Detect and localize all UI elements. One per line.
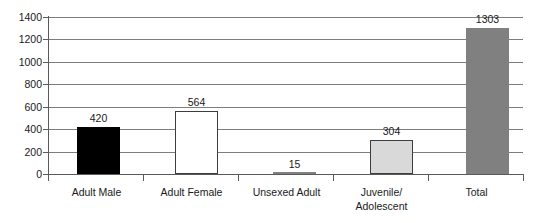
y-axis-label-0: 0 (2, 169, 42, 180)
x-tick-5 (523, 175, 524, 181)
y-axis-label-200: 200 (2, 147, 42, 158)
y-tick-800 (43, 84, 49, 85)
gridline-200 (49, 152, 523, 153)
x-axis-label-adult-male-line1: Adult Male (49, 185, 144, 199)
x-axis-label-unsexed-adult-line1: Unsexed Adult (239, 185, 334, 199)
x-axis-label-juvenile-line1: Juvenile/ (334, 185, 429, 199)
bar-value-unsexed-adult: 15 (273, 159, 316, 170)
bar-value-total: 1303 (466, 14, 509, 25)
gridline-600 (49, 107, 523, 108)
y-axis-label-400: 400 (2, 124, 42, 135)
y-tick-1400 (43, 17, 49, 18)
x-axis-label-total: Total (429, 185, 524, 199)
gridline-400 (49, 129, 523, 130)
x-axis-label-juvenile-line2: Adolescent (334, 199, 429, 213)
bar-adult-female (175, 111, 218, 174)
x-axis-line (48, 174, 524, 175)
y-axis-label-600: 600 (2, 102, 42, 113)
y-axis-label-800: 800 (2, 79, 42, 90)
x-axis-label-total-line1: Total (429, 185, 524, 199)
bar-adult-male (77, 127, 120, 174)
x-axis-label-adult-female: Adult Female (144, 185, 239, 199)
x-tick-2 (238, 175, 239, 181)
plot-area (49, 17, 523, 174)
x-axis-label-adult-female-line1: Adult Female (144, 185, 239, 199)
y-axis-label-1200: 1200 (2, 34, 42, 45)
y-axis-label-1400: 1400 (2, 12, 42, 23)
x-axis-label-juvenile: Juvenile/ Adolescent (334, 185, 429, 213)
x-tick-3 (333, 175, 334, 181)
bar-value-adult-female: 564 (175, 97, 218, 108)
y-axis-label-1000: 1000 (2, 57, 42, 68)
x-tick-1 (143, 175, 144, 181)
y-tick-1000 (43, 62, 49, 63)
gridline-1400 (49, 17, 523, 18)
x-tick-4 (428, 175, 429, 181)
gridline-800 (49, 84, 523, 85)
x-axis-label-adult-male: Adult Male (49, 185, 144, 199)
bar-juvenile (370, 140, 413, 174)
x-tick-0 (48, 175, 49, 181)
bar-value-adult-male: 420 (77, 113, 120, 124)
bar-value-juvenile: 304 (370, 126, 413, 137)
y-tick-1200 (43, 39, 49, 40)
gridline-1200 (49, 39, 523, 40)
y-tick-200 (43, 152, 49, 153)
bar-total (466, 28, 509, 174)
bar-chart: 1400 1200 1000 800 600 400 200 0 420 564… (0, 0, 545, 223)
gridline-1000 (49, 62, 523, 63)
x-axis-label-unsexed-adult: Unsexed Adult (239, 185, 334, 199)
y-tick-600 (43, 107, 49, 108)
y-tick-400 (43, 129, 49, 130)
